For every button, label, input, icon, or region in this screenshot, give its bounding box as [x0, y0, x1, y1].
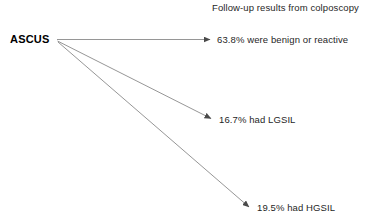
outcome-label-lgsil: 16.7% had LGSIL	[219, 115, 296, 125]
outcome-label-hgsil: 19.5% had HGSIL	[257, 203, 335, 213]
source-node-ascus: ASCUS	[10, 34, 50, 45]
outcome-label-benign: 63.8% were benign or reactive	[217, 35, 348, 45]
arrow-branch-lgsil	[58, 41, 212, 119]
figure-title: Follow-up results from colposcopy	[212, 3, 359, 13]
colposcopy-followup-figure: Follow-up results from colposcopy ASCUS …	[0, 0, 373, 221]
